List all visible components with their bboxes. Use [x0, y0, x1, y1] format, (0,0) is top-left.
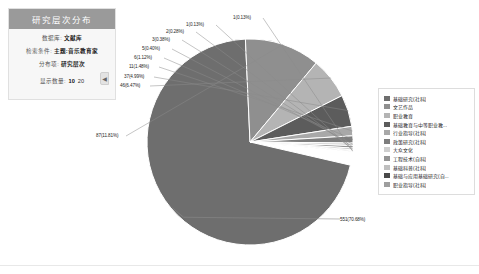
legend-swatch-icon [384, 156, 390, 161]
display-count-label: 显示数量: [40, 77, 66, 85]
pie-slice-label: 6(1.12%) [134, 55, 152, 60]
legend-item[interactable]: 基础教育与中等职业教... [384, 120, 470, 129]
legend-item[interactable]: 文艺作品 [384, 103, 470, 112]
legend-item[interactable]: 工程技术(自科) [384, 154, 470, 163]
pie-slice-label: 37(4.99%) [124, 74, 144, 79]
pie-slice-label: 11(1.48%) [129, 64, 149, 69]
meta-label-distribution-item: 分布项: [39, 60, 59, 68]
legend-label: 政策研究(社科) [393, 138, 426, 145]
legend-label: 大众文化 [393, 146, 413, 153]
legend-swatch-icon [384, 139, 390, 144]
legend-label: 基础科普(社科) [393, 164, 426, 171]
pie-slice-label: 1(0.13%) [233, 15, 251, 20]
legend-swatch-icon [384, 104, 390, 109]
legend-item[interactable]: 政策研究(社科) [384, 137, 470, 146]
pie-slice-label: 87(11.81%) [96, 133, 118, 138]
legend-swatch-icon [384, 182, 390, 187]
pie-slices [147, 39, 353, 245]
legend-item[interactable]: 行业指导(社科) [384, 128, 470, 137]
legend-label: 职业教育 [393, 112, 413, 119]
panel-collapse-button[interactable]: ◀ [100, 72, 109, 85]
bottom-divider [0, 265, 479, 266]
chart-legend: 基础研究(社科)文艺作品职业教育基础教育与中等职业教...行业指导(社科)政策研… [378, 88, 475, 195]
legend-swatch-icon [384, 173, 390, 178]
pie-slice-label: 46(6.47%) [120, 83, 140, 88]
legend-swatch-icon [384, 165, 390, 170]
pie-slice-label: 3(0.38%) [152, 37, 170, 42]
legend-swatch-icon [384, 113, 390, 118]
meta-value-search-condition: 主题:音乐教育家 [54, 47, 98, 55]
legend-label: 行业指导(社科) [393, 129, 426, 136]
meta-row-distribution-item: 分布项: 研究层次 [9, 60, 115, 68]
pie-chart-page: 研究层次分布 数据库: 文献库 检索条件: 主题:音乐教育家 分布项: 研究层次… [0, 0, 479, 274]
legend-label: 职业指导(社科) [393, 181, 426, 188]
pie-slice-label: 2(0.28%) [166, 29, 184, 34]
legend-item[interactable]: 大众文化 [384, 146, 470, 155]
meta-value-distribution-item: 研究层次 [61, 60, 85, 68]
legend-item[interactable]: 职业指导(社科) [384, 180, 470, 189]
pie-slice-label: 1(0.13%) [186, 22, 204, 27]
meta-label-database: 数据库: [42, 34, 62, 42]
legend-label: 基础教育与中等职业教... [393, 121, 447, 128]
display-count-option-20[interactable]: 20 [78, 78, 84, 84]
legend-label: 工程技术(自科) [393, 155, 426, 162]
meta-row-search-condition: 检索条件: 主题:音乐教育家 [9, 47, 115, 55]
legend-item[interactable]: 基础与应用基础研究(自... [384, 171, 470, 180]
page-title: 研究层次分布 [9, 9, 115, 29]
pie-slice-label: 551(70.68%) [340, 217, 365, 222]
legend-label: 基础与应用基础研究(自... [393, 172, 449, 179]
legend-label: 文艺作品 [393, 103, 413, 110]
legend-item[interactable]: 基础研究(社科) [384, 94, 470, 103]
legend-swatch-icon [384, 130, 390, 135]
query-summary-panel: 研究层次分布 数据库: 文献库 检索条件: 主题:音乐教育家 分布项: 研究层次… [8, 8, 116, 100]
pie-slice-label: 5(0.40%) [142, 46, 160, 51]
legend-swatch-icon [384, 96, 390, 101]
meta-label-search-condition: 检索条件: [26, 47, 52, 55]
meta-row-database: 数据库: 文献库 [9, 34, 115, 42]
legend-swatch-icon [384, 122, 390, 127]
legend-item[interactable]: 职业教育 [384, 111, 470, 120]
legend-item[interactable]: 基础科普(社科) [384, 163, 470, 172]
meta-value-database: 文献库 [64, 34, 82, 42]
legend-label: 基础研究(社科) [393, 95, 426, 102]
legend-swatch-icon [384, 147, 390, 152]
display-count-option-10[interactable]: 10 [69, 78, 75, 84]
pie-chart: 551(70.68%)87(11.81%)46(6.47%)37(4.99%)1… [118, 0, 373, 274]
chevron-left-icon: ◀ [102, 76, 107, 82]
